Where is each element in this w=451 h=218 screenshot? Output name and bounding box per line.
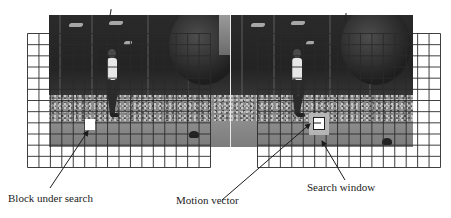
annotation-arrows: [0, 0, 451, 218]
motion-vector-label: Motion vector: [176, 194, 239, 206]
block-under-search-label: Block under search: [8, 192, 93, 204]
search-window-label: Search window: [307, 181, 375, 193]
motion-vector-arrow: [222, 124, 310, 200]
search-window-arrow: [322, 141, 345, 180]
block-under-search-arrow: [50, 131, 88, 188]
